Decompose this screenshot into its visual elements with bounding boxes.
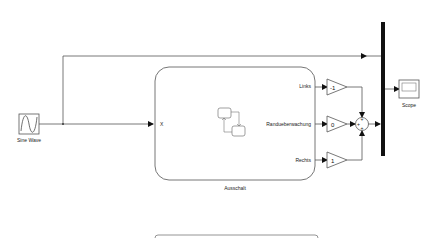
scope-screen-icon <box>402 83 416 91</box>
gain-value: -1 <box>330 85 336 91</box>
sum-sign-bottom: + <box>361 125 364 131</box>
sine-wave-block[interactable]: Sine Wave <box>17 114 41 143</box>
sum-sign-top: + <box>361 116 364 122</box>
sum-block[interactable]: + + + <box>356 116 369 131</box>
mux-block[interactable] <box>381 22 385 156</box>
chart-output-port-links: Links <box>299 83 311 89</box>
sine-wave-label: Sine Wave <box>17 137 41 143</box>
signal-gain1-to-sum[interactable] <box>347 87 362 117</box>
chart-output-port-randueberwachung: Randueberwachung <box>266 121 311 127</box>
gain-block-rechts[interactable]: 1 <box>327 152 347 168</box>
chart-output-port-rechts: Rechts <box>295 157 311 163</box>
simulink-canvas: Sine Wave X Links Randueberwachung Recht… <box>0 0 432 238</box>
gain-block-randueberwachung[interactable]: 0 <box>327 116 347 132</box>
scope-block[interactable]: Scope <box>399 80 419 108</box>
partial-block-bottom[interactable] <box>155 235 318 238</box>
chart-label: Ausschalt <box>224 185 246 191</box>
gain-block-links[interactable]: -1 <box>327 79 347 95</box>
scope-label: Scope <box>402 102 416 108</box>
signal-gain3-to-sum[interactable] <box>347 131 362 160</box>
chart-block-ausschalt[interactable]: X Links Randueberwachung Rechts Ausschal… <box>155 67 315 191</box>
